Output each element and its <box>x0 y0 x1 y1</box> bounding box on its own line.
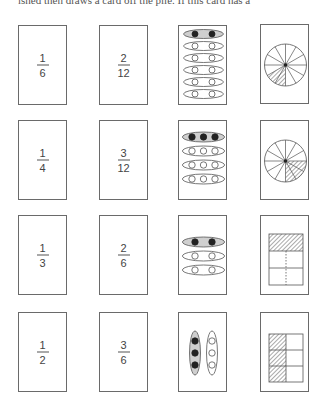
fraction: 2 12 <box>100 52 147 79</box>
circle-model-card-2-of-12 <box>260 24 309 104</box>
denominator: 4 <box>19 162 66 174</box>
numerator: 3 <box>100 147 147 159</box>
fraction-card-1-4: 1 4 <box>18 120 67 200</box>
fraction-bar <box>118 352 130 353</box>
set-model-card-6-groups-of-2 <box>178 25 227 105</box>
set-model-card-3-groups-of-2 <box>178 215 227 295</box>
fraction: 1 2 <box>19 339 66 366</box>
rectangle-fraction-diagram <box>261 313 310 393</box>
set-model-card-4-groups-of-3 <box>178 120 227 200</box>
denominator: 6 <box>100 257 147 269</box>
clipped-text-line: ished then draws a card off the pile. If… <box>18 0 329 6</box>
fraction-card-3-6: 3 6 <box>99 312 148 392</box>
set-model-diagram <box>179 26 228 106</box>
fraction: 3 6 <box>100 339 147 366</box>
numerator: 1 <box>19 52 66 64</box>
fraction-bar <box>118 255 130 256</box>
rectangle-model-card-top-third <box>260 215 309 295</box>
fraction-bar <box>37 352 49 353</box>
fraction: 1 6 <box>19 52 66 79</box>
fraction: 2 6 <box>100 242 147 269</box>
rectangle-fraction-diagram <box>261 216 310 296</box>
circle-fraction-diagram <box>261 121 310 201</box>
numerator: 2 <box>100 52 147 64</box>
fraction-card-1-2: 1 2 <box>18 312 67 392</box>
circle-model-card-3-of-12 <box>260 120 309 200</box>
fraction-card-1-6: 1 6 <box>18 25 67 105</box>
fraction-bar <box>118 65 130 66</box>
set-model-diagram <box>179 121 228 201</box>
fraction-card-2-6: 2 6 <box>99 215 148 295</box>
numerator: 1 <box>19 147 66 159</box>
set-model-diagram <box>179 313 228 393</box>
fraction: 1 3 <box>19 242 66 269</box>
fraction-bar <box>37 160 49 161</box>
denominator: 12 <box>100 162 147 174</box>
set-model-diagram <box>179 216 228 296</box>
fraction-bar <box>118 160 130 161</box>
circle-fraction-diagram <box>261 25 310 105</box>
numerator: 1 <box>19 242 66 254</box>
fraction-bar <box>37 65 49 66</box>
fraction: 1 4 <box>19 147 66 174</box>
numerator: 1 <box>19 339 66 351</box>
denominator: 6 <box>19 67 66 79</box>
denominator: 2 <box>19 354 66 366</box>
denominator: 6 <box>100 354 147 366</box>
denominator: 3 <box>19 257 66 269</box>
fraction-card-1-3: 1 3 <box>18 215 67 295</box>
rectangle-model-card-left-half <box>260 312 309 392</box>
fraction-card-3-12: 3 12 <box>99 120 148 200</box>
fraction: 3 12 <box>100 147 147 174</box>
numerator: 2 <box>100 242 147 254</box>
denominator: 12 <box>100 67 147 79</box>
set-model-card-2-groups-of-3 <box>178 312 227 392</box>
numerator: 3 <box>100 339 147 351</box>
fraction-bar <box>37 255 49 256</box>
fraction-card-2-12: 2 12 <box>99 25 148 105</box>
